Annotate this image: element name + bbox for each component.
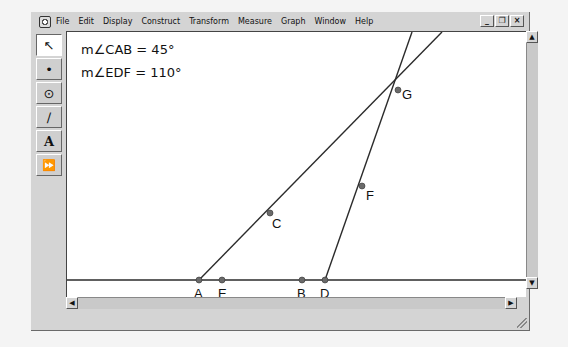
point-tool[interactable]: • xyxy=(36,58,62,80)
close-button[interactable]: × xyxy=(510,15,524,27)
text-icon: A xyxy=(44,134,54,149)
sketchpad-window: File Edit Display Construct Transform Me… xyxy=(31,12,530,331)
geometry-figure: A E B D C F G xyxy=(67,32,526,297)
selection-arrow-tool[interactable]: ↖ xyxy=(36,34,62,56)
label-f[interactable]: F xyxy=(366,188,374,203)
scroll-right-button[interactable]: ▶ xyxy=(505,297,517,309)
compass-tool[interactable]: ⊙ xyxy=(36,82,62,104)
menu-construct[interactable]: Construct xyxy=(141,17,180,26)
menu-file[interactable]: File xyxy=(56,17,69,26)
label-d[interactable]: D xyxy=(320,286,329,297)
fast-forward-icon: ⏩ xyxy=(42,159,56,172)
circle-icon: ⊙ xyxy=(44,86,55,101)
segment-icon: ∕ xyxy=(47,110,51,125)
menu-help[interactable]: Help xyxy=(355,17,373,26)
arrow-icon: ↖ xyxy=(44,38,55,53)
custom-tool[interactable]: ⏩ xyxy=(36,154,62,176)
label-a[interactable]: A xyxy=(194,286,203,297)
point-d[interactable] xyxy=(322,277,328,283)
label-e[interactable]: E xyxy=(218,286,227,297)
label-g[interactable]: G xyxy=(402,87,412,102)
point-e[interactable] xyxy=(219,277,225,283)
point-g[interactable] xyxy=(395,87,401,93)
ray-ac[interactable] xyxy=(199,32,442,280)
straightedge-tool[interactable]: ∕ xyxy=(36,106,62,128)
point-icon: • xyxy=(45,62,53,77)
scroll-down-button[interactable]: ▼ xyxy=(526,277,538,289)
restore-button[interactable]: ❐ xyxy=(495,15,509,27)
menu-measure[interactable]: Measure xyxy=(238,17,272,26)
minimize-button[interactable]: _ xyxy=(480,15,494,27)
label-c[interactable]: C xyxy=(272,216,281,231)
sketch-canvas[interactable]: m∠CAB = 45° m∠EDF = 110° A E B D C F G xyxy=(66,31,526,297)
menu-window[interactable]: Window xyxy=(314,17,346,26)
menu-display[interactable]: Display xyxy=(103,17,133,26)
point-b[interactable] xyxy=(299,277,305,283)
point-a[interactable] xyxy=(196,277,202,283)
window-controls: _ ❐ × xyxy=(480,15,524,27)
scroll-up-button[interactable]: ▲ xyxy=(526,31,538,43)
menu-graph[interactable]: Graph xyxy=(281,17,306,26)
horizontal-scrollbar[interactable]: ◀ ▶ xyxy=(66,297,517,309)
point-f[interactable] xyxy=(359,183,365,189)
label-b[interactable]: B xyxy=(297,286,306,297)
toolbox: ↖ • ⊙ ∕ A ⏩ xyxy=(36,34,64,180)
text-tool[interactable]: A xyxy=(36,130,62,152)
menu-transform[interactable]: Transform xyxy=(189,17,229,26)
scroll-left-button[interactable]: ◀ xyxy=(66,297,78,309)
resize-grip-icon[interactable] xyxy=(517,318,527,328)
menu-edit[interactable]: Edit xyxy=(78,17,94,26)
vertical-scrollbar[interactable]: ▲ ▼ xyxy=(526,31,538,289)
app-icon[interactable] xyxy=(39,16,51,28)
ray-df[interactable] xyxy=(325,32,412,280)
menu-bar: File Edit Display Construct Transform Me… xyxy=(31,12,529,31)
